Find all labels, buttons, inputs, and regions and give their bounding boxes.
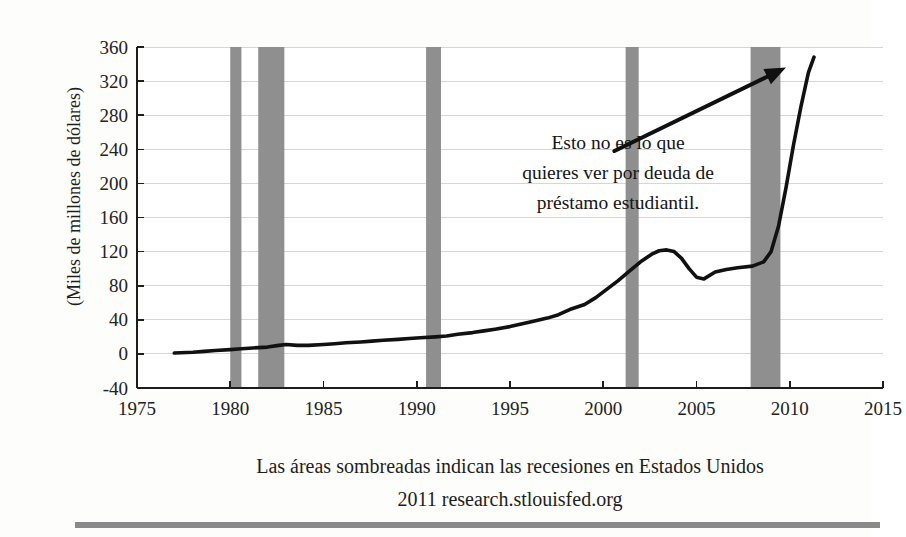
recession-band xyxy=(751,47,781,388)
y-tick-label: 320 xyxy=(100,71,129,92)
y-tick-label: 120 xyxy=(100,241,129,262)
y-axis-title: (Miles de millones de dólares) xyxy=(64,87,85,306)
student-loan-debt-chart: -4004080120160200240280320360 1975198019… xyxy=(40,16,906,537)
x-tick-label: 1975 xyxy=(118,398,156,419)
y-tick-label: 40 xyxy=(109,309,128,330)
x-tick-label: 2010 xyxy=(771,398,809,419)
x-tick-label: 1990 xyxy=(398,398,436,419)
recession-band xyxy=(230,47,241,388)
x-tick-label: 1995 xyxy=(491,398,529,419)
chart-svg: -4004080120160200240280320360 1975198019… xyxy=(40,16,906,537)
y-tick-label: 240 xyxy=(100,139,129,160)
y-tick-label: 160 xyxy=(100,207,129,228)
callout-line-3: préstamo estudiantil. xyxy=(537,192,699,213)
x-tick-label: 1985 xyxy=(305,398,343,419)
recession-caption: Las áreas sombreadas indican las recesio… xyxy=(256,455,764,477)
x-tick-label: 2015 xyxy=(864,398,902,419)
horizontal-rule xyxy=(75,522,880,528)
y-tick-label: -40 xyxy=(103,378,128,399)
source-caption: 2011 research.stlouisfed.org xyxy=(398,488,623,511)
recession-band xyxy=(258,47,284,388)
callout-line-2: quieres ver por deuda de xyxy=(522,162,714,183)
x-tick-label: 1980 xyxy=(211,398,249,419)
y-tick-label: 360 xyxy=(100,37,129,58)
x-tick-label: 2005 xyxy=(678,398,716,419)
recession-band xyxy=(626,47,639,388)
y-tick-label: 0 xyxy=(119,343,129,364)
y-tick-label: 280 xyxy=(100,105,129,126)
y-tick-label: 80 xyxy=(109,275,128,296)
y-tick-label: 200 xyxy=(100,173,129,194)
x-tick-label: 2000 xyxy=(584,398,622,419)
